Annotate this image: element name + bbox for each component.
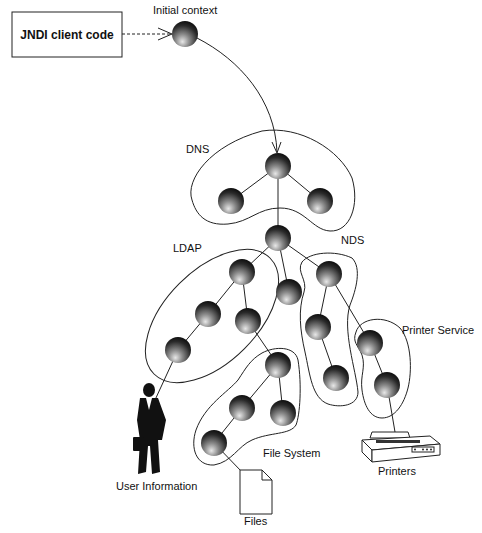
node-fs-midleft <box>229 395 255 421</box>
node-mid <box>276 279 302 305</box>
node-ldap-midleft <box>195 301 221 327</box>
node-ldap-midright <box>235 308 261 334</box>
node-dns-left <box>218 188 244 214</box>
node-fs-top <box>265 352 291 378</box>
node-nds-top <box>316 261 342 287</box>
dns-outline <box>191 130 355 231</box>
node-ldap-bottom <box>165 337 191 363</box>
node-dns-top <box>265 153 291 179</box>
tree-nodes <box>165 21 400 456</box>
dashed-arrow <box>122 28 172 40</box>
node-initial-context <box>172 21 198 47</box>
curved-arrow <box>197 38 281 153</box>
node-dns-right <box>307 188 333 214</box>
node-printer-bottom <box>374 372 400 398</box>
node-fs-bottom <box>201 430 227 456</box>
printer-icon <box>362 432 440 462</box>
node-fs-midright <box>270 400 296 426</box>
files-label: Files <box>244 515 267 527</box>
jndi-diagram <box>0 0 482 533</box>
node-nds-bottom <box>323 365 349 391</box>
file-system-label: File System <box>263 447 320 459</box>
person-icon <box>133 383 166 474</box>
node-ldap-top <box>229 259 255 285</box>
jndi-client-label: JNDI client code <box>12 12 122 57</box>
initial-context-label: Initial context <box>153 4 217 16</box>
tree-edges <box>155 166 395 472</box>
ldap-label: LDAP <box>173 242 202 254</box>
printers-label: Printers <box>378 465 416 477</box>
document-icon <box>240 470 272 514</box>
node-root <box>265 225 291 251</box>
node-printer-top <box>357 330 383 356</box>
user-information-label: User Information <box>116 480 197 492</box>
dns-label: DNS <box>186 143 209 155</box>
nds-label: NDS <box>341 234 364 246</box>
printer-service-label: Printer Service <box>402 324 474 336</box>
node-nds-mid <box>305 314 331 340</box>
